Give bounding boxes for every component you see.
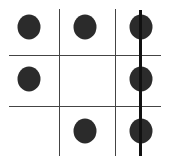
board-cell-r3-c2[interactable]	[60, 107, 110, 155]
board-cell-r1-c1[interactable]	[4, 3, 54, 51]
game-board	[0, 0, 172, 165]
dot-piece-icon	[18, 67, 41, 92]
board-cell-r2-c2[interactable]	[60, 55, 110, 103]
board-cell-r3-c1[interactable]	[4, 107, 54, 155]
dot-piece-icon	[18, 15, 41, 40]
board-cell-r1-c2[interactable]	[60, 3, 110, 51]
dot-piece-icon	[74, 119, 97, 144]
winning-line	[139, 10, 142, 156]
board-cell-r2-c1[interactable]	[4, 55, 54, 103]
dot-piece-icon	[74, 15, 97, 40]
